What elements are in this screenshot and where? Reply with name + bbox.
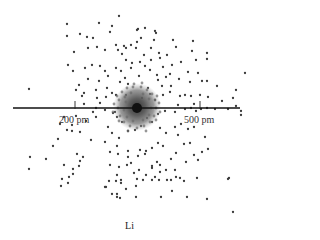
nucleus <box>132 103 142 113</box>
electron-dot <box>78 165 80 167</box>
electron-dot <box>187 71 189 73</box>
electron-dot <box>123 45 125 47</box>
electron-dot <box>244 72 246 74</box>
electron-dot <box>68 176 70 178</box>
electron-dot <box>117 49 119 51</box>
electron-dot <box>105 186 107 188</box>
electron-dot <box>99 65 101 67</box>
electron-dot <box>156 74 158 76</box>
electron-dot <box>112 111 115 114</box>
electron-dot <box>192 40 194 42</box>
electron-dot <box>150 59 152 61</box>
electron-dot <box>123 109 126 112</box>
electron-dot <box>197 72 199 74</box>
electron-dot <box>145 130 148 133</box>
electron-dot <box>228 177 230 179</box>
electron-dot <box>92 111 94 113</box>
electron-dot <box>78 84 80 86</box>
electron-dot <box>72 173 74 175</box>
electron-dot <box>191 50 193 52</box>
electron-dot <box>130 92 133 95</box>
electron-dot <box>170 158 172 160</box>
electron-dot <box>159 57 161 59</box>
electron-dot <box>177 104 179 106</box>
electron-dot <box>180 61 182 63</box>
electron-dot <box>206 58 208 60</box>
electron-dot <box>175 152 177 154</box>
electron-dot <box>197 159 199 161</box>
electron-dot <box>66 23 68 25</box>
electron-dot <box>189 142 191 144</box>
electron-dot <box>146 89 149 92</box>
electron-dot <box>113 103 116 106</box>
electron-dot <box>157 142 159 144</box>
electron-dot <box>161 85 163 87</box>
electron-dot <box>206 198 208 200</box>
electron-dot <box>145 174 147 176</box>
electron-dot <box>206 52 208 54</box>
electron-dot <box>95 116 97 118</box>
electron-dot <box>156 95 159 98</box>
electron-dot <box>154 176 156 178</box>
electron-dot <box>126 164 128 166</box>
electron-dot <box>95 89 97 91</box>
electron-dot <box>127 130 130 133</box>
electron-dot <box>141 82 144 85</box>
electron-dot <box>115 180 117 182</box>
electron-dot <box>118 15 120 17</box>
electron-dot <box>136 29 138 31</box>
electron-dot <box>105 96 107 98</box>
electron-dot <box>193 103 195 105</box>
electron-dot <box>150 47 152 49</box>
electron-dot <box>179 95 181 97</box>
electron-dot <box>120 182 122 184</box>
electron-dot <box>136 178 138 180</box>
electron-dot <box>145 150 147 152</box>
electron-dot <box>57 138 59 140</box>
electron-dot <box>139 149 141 151</box>
electron-dot <box>119 197 121 199</box>
electron-dot <box>140 86 143 89</box>
electron-dot <box>162 66 164 68</box>
electron-dot <box>135 185 137 187</box>
electron-dot <box>130 162 132 164</box>
electron-dot <box>87 78 89 80</box>
electron-dot <box>151 165 153 167</box>
electron-dot <box>124 77 126 79</box>
electron-dot <box>143 54 145 56</box>
electron-dot <box>90 139 92 141</box>
electron-dot <box>138 75 140 77</box>
electron-dot <box>107 75 109 77</box>
electron-dot <box>179 177 181 179</box>
electron-dot <box>165 169 167 171</box>
electron-dot <box>79 160 81 162</box>
electron-dot <box>175 176 177 178</box>
electron-dot <box>111 25 113 27</box>
electron-dot <box>183 143 185 145</box>
electron-dot <box>130 44 132 46</box>
electron-dot <box>154 30 156 32</box>
electron-dot <box>60 185 62 187</box>
electron-dot <box>86 36 88 38</box>
electron-dot <box>144 153 146 155</box>
electron-dot <box>240 114 242 116</box>
electron-dot <box>121 91 124 94</box>
electron-dot <box>98 22 100 24</box>
electron-dot <box>83 103 85 105</box>
electron-dot <box>104 141 106 143</box>
electron-dot <box>119 81 121 83</box>
electron-dot <box>232 97 234 99</box>
electron-dot <box>127 156 129 158</box>
electron-dot <box>79 131 81 133</box>
electron-dot <box>127 150 129 152</box>
electron-dot <box>81 95 83 97</box>
electron-dot <box>155 119 158 122</box>
electron-dot <box>153 39 155 41</box>
electron-dot <box>132 120 135 123</box>
electron-dot <box>129 125 132 128</box>
electron-dot <box>115 67 117 69</box>
electron-dot <box>183 180 185 182</box>
electron-dot <box>169 91 171 93</box>
electron-dot <box>165 76 167 78</box>
electron-dot <box>174 126 176 128</box>
